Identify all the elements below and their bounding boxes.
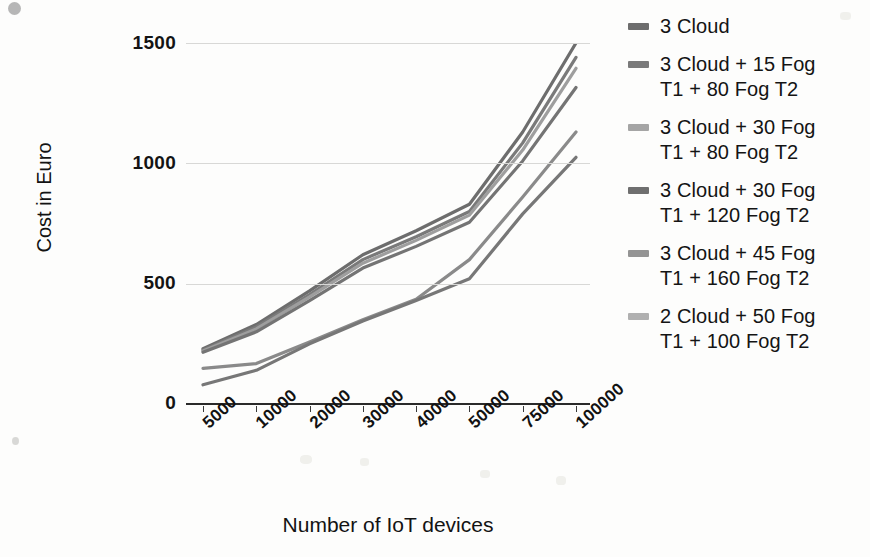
x-axis-tick (203, 406, 204, 412)
y-tick-label: 500 (143, 272, 176, 294)
legend-label: 2 Cloud + 50 FogT1 + 100 Fog T2 (660, 304, 816, 354)
legend-swatch-icon (628, 23, 649, 30)
x-axis-title: Number of IoT devices (186, 513, 590, 537)
legend-item[interactable]: 3 Cloud (628, 14, 864, 39)
chart-legend: 3 Cloud3 Cloud + 15 FogT1 + 80 Fog T23 C… (628, 14, 864, 367)
legend-swatch-icon (628, 61, 649, 68)
series-line (203, 88, 576, 353)
gridline-1000 (186, 163, 590, 164)
x-axis-tick (523, 406, 524, 412)
legend-item[interactable]: 3 Cloud + 30 FogT1 + 80 Fog T2 (628, 115, 864, 165)
legend-label: 3 Cloud + 30 FogT1 + 120 Fog T2 (660, 178, 816, 228)
legend-label: 3 Cloud + 15 FogT1 + 80 Fog T2 (660, 52, 816, 102)
legend-swatch-icon (628, 187, 649, 194)
x-axis-tick (363, 406, 364, 412)
legend-swatch-icon (628, 124, 649, 131)
legend-label: 3 Cloud + 45 FogT1 + 160 Fog T2 (660, 241, 816, 291)
gridline-1500 (186, 43, 590, 44)
legend-swatch-icon (628, 313, 649, 320)
plot-area (186, 43, 590, 404)
legend-item[interactable]: 3 Cloud + 45 FogT1 + 160 Fog T2 (628, 241, 864, 291)
series-line (203, 43, 576, 349)
legend-item[interactable]: 3 Cloud + 15 FogT1 + 80 Fog T2 (628, 52, 864, 102)
x-axis-tick (576, 406, 577, 412)
x-axis-tick (310, 406, 311, 412)
x-axis-tick-labels: 5000100002000030000400005000075000100000 (0, 418, 640, 498)
legend-item[interactable]: 3 Cloud + 30 FogT1 + 120 Fog T2 (628, 178, 864, 228)
gridline-500 (186, 284, 590, 285)
x-axis-tick (416, 406, 417, 412)
legend-label: 3 Cloud (660, 14, 730, 39)
y-tick-label: 0 (165, 392, 176, 414)
series-line (203, 57, 576, 349)
legend-item[interactable]: 2 Cloud + 50 FogT1 + 100 Fog T2 (628, 304, 864, 354)
legend-label: 3 Cloud + 30 FogT1 + 80 Fog T2 (660, 115, 816, 165)
x-axis-tick (469, 406, 470, 412)
series-lines (186, 43, 590, 404)
y-tick-label: 1500 (133, 32, 176, 54)
series-line (203, 157, 576, 384)
chart-figure: Cost in Euro 1500 1000 500 0 50001000020… (0, 0, 870, 557)
y-tick-label: 1000 (133, 152, 176, 174)
x-axis-tick (256, 406, 257, 412)
legend-swatch-icon (628, 250, 649, 257)
